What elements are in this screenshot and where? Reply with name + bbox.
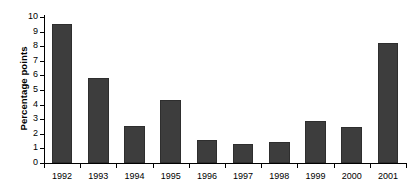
- bar: [305, 121, 326, 163]
- bar: [197, 140, 218, 163]
- y-tick-label: 0: [14, 158, 38, 167]
- bar: [233, 144, 254, 163]
- bar: [160, 100, 181, 164]
- y-tick-label: 6: [14, 70, 38, 79]
- y-tick-label: 8: [14, 41, 38, 50]
- y-tick-label: 2: [14, 129, 38, 138]
- x-tick-mark: [153, 164, 154, 168]
- bar: [124, 126, 145, 163]
- x-axis-label: 1996: [189, 172, 225, 181]
- y-tick-label: 7: [14, 56, 38, 65]
- y-tick-label: 5: [14, 85, 38, 94]
- bar: [269, 142, 290, 163]
- x-axis-label: 1999: [297, 172, 333, 181]
- x-axis-label: 1992: [44, 172, 80, 181]
- bar: [341, 127, 362, 163]
- bar: [52, 24, 73, 163]
- y-tick-label: 10: [14, 12, 38, 21]
- x-tick-mark: [297, 164, 298, 168]
- x-axis-label: 2001: [370, 172, 406, 181]
- x-tick-mark: [334, 164, 335, 168]
- x-tick-mark: [225, 164, 226, 168]
- x-axis-label: 1995: [153, 172, 189, 181]
- x-tick-mark: [406, 164, 407, 168]
- x-axis-label: 2000: [334, 172, 370, 181]
- x-tick-mark: [80, 164, 81, 168]
- x-axis-label: 1998: [261, 172, 297, 181]
- plot-area: [44, 17, 406, 163]
- y-tick-label: 1: [14, 143, 38, 152]
- x-axis-label: 1997: [225, 172, 261, 181]
- bar: [378, 43, 399, 163]
- x-tick-mark: [44, 164, 45, 168]
- x-tick-mark: [116, 164, 117, 168]
- x-tick-mark: [261, 164, 262, 168]
- bar: [88, 78, 109, 163]
- x-tick-mark: [189, 164, 190, 168]
- y-tick-label: 4: [14, 100, 38, 109]
- bar-chart: Percentage points 012345678910 199219931…: [0, 0, 411, 192]
- x-tick-mark: [370, 164, 371, 168]
- x-axis-label: 1993: [80, 172, 116, 181]
- x-axis-label: 1994: [116, 172, 152, 181]
- y-tick-label: 9: [14, 27, 38, 36]
- y-tick-label: 3: [14, 114, 38, 123]
